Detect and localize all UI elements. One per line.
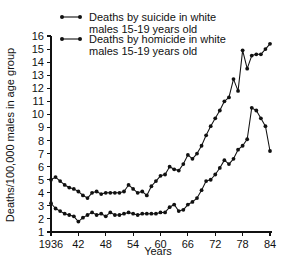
series-data-point	[163, 211, 167, 215]
series-data-point	[254, 109, 258, 113]
series-data-point	[218, 109, 222, 113]
series-data-point	[81, 194, 85, 198]
series-data-point	[254, 52, 258, 56]
series-data-point	[58, 179, 62, 183]
series-data-point	[245, 67, 249, 71]
chart-figure: Deaths/100,000 males in age group 123456…	[0, 0, 288, 260]
series-data-point	[95, 213, 99, 217]
series-data-point	[200, 144, 204, 148]
series-data-point	[58, 209, 62, 213]
series-data-point	[118, 191, 122, 195]
y-tick-label: 13	[32, 69, 44, 81]
x-tick-label: 1936	[39, 238, 63, 250]
series-data-point	[191, 157, 195, 161]
series-data-point	[195, 196, 199, 200]
series-data-point	[49, 201, 53, 205]
series-data-point	[172, 167, 176, 171]
series-data-point	[54, 207, 58, 211]
series-data-point	[250, 106, 254, 110]
series-data-point	[227, 162, 231, 166]
y-axis-title-label: Deaths/100,000 males in age group	[4, 48, 16, 222]
series-data-point	[177, 169, 181, 173]
series-data-point	[104, 214, 108, 218]
y-axis-title: Deaths/100,000 males in age group	[4, 48, 16, 222]
series-data-point	[241, 48, 245, 52]
series-data-point	[86, 196, 90, 200]
series-data-point	[163, 173, 167, 177]
series-data-point	[168, 205, 172, 209]
legend-marker-dot	[78, 15, 82, 19]
x-tick-label: 48	[100, 238, 112, 250]
series-data-point	[159, 174, 163, 178]
series-data-point	[113, 213, 117, 217]
series-data-point	[268, 149, 272, 153]
series-data-point	[268, 42, 272, 46]
series-data-point	[227, 96, 231, 100]
series-data-point	[63, 183, 67, 187]
series-data-point	[136, 191, 140, 195]
series-data-point	[140, 190, 144, 194]
series-data-point	[195, 152, 199, 156]
legend-marker-dot	[60, 37, 64, 41]
x-tick-label: 72	[209, 238, 221, 250]
series-data-point	[72, 187, 76, 191]
suicide-homicide-line-chart: Deaths/100,000 males in age group 123456…	[0, 0, 288, 260]
series-data-point	[118, 213, 122, 217]
series-data-point	[250, 54, 254, 58]
y-tick-label: 8	[38, 135, 44, 147]
series-data-point	[113, 191, 117, 195]
series-data-point	[186, 203, 190, 207]
y-tick-label: 7	[38, 148, 44, 160]
series-data-point	[232, 77, 236, 81]
y-tick-label: 14	[32, 56, 44, 68]
series-data-point	[236, 89, 240, 93]
series-data-point	[191, 200, 195, 204]
x-tick-label: 54	[127, 238, 139, 250]
series-data-point	[154, 179, 158, 183]
series-data-point	[99, 212, 103, 216]
y-tick-label: 3	[38, 200, 44, 212]
series-data-point	[108, 211, 112, 215]
series-data-point	[264, 124, 268, 128]
series-data-point	[67, 213, 71, 217]
y-tick-label: 12	[32, 82, 44, 94]
series-data-point	[222, 99, 226, 103]
series-data-point	[122, 212, 126, 216]
series-data-point	[122, 190, 126, 194]
series-data-point	[81, 216, 85, 220]
series-data-point	[95, 190, 99, 194]
y-tick-label: 16	[32, 30, 44, 42]
series-data-point	[76, 220, 80, 224]
x-axis-title: Years	[144, 245, 172, 257]
legend-label-line1: Deaths by suicide in white	[89, 11, 216, 23]
series-data-point	[236, 148, 240, 152]
x-tick-label: 66	[182, 238, 194, 250]
series-data-point	[213, 173, 217, 177]
series-data-point	[72, 214, 76, 218]
series-data-point	[241, 144, 245, 148]
y-tick-label: 9	[38, 121, 44, 133]
series-data-point	[232, 157, 236, 161]
series-data-point	[99, 192, 103, 196]
legend-label-line1: Deaths by homicide in white	[89, 33, 226, 45]
series-data-point	[172, 203, 176, 207]
y-tick-label: 5	[38, 174, 44, 186]
series-data-point	[149, 212, 153, 216]
y-tick-label: 6	[38, 161, 44, 173]
y-tick-label: 15	[32, 43, 44, 55]
series-data-point	[86, 213, 90, 217]
series-data-point	[90, 191, 94, 195]
series-data-point	[127, 211, 131, 215]
series-data-point	[67, 186, 71, 190]
series-data-point	[209, 124, 213, 128]
series-data-point	[108, 191, 112, 195]
series-data-point	[177, 209, 181, 213]
series-data-point	[54, 175, 58, 179]
legend-marker-dot	[78, 37, 82, 41]
series-data-point	[159, 211, 163, 215]
x-axis-title-label: Years	[144, 245, 172, 257]
series-data-point	[131, 187, 135, 191]
series-data-point	[218, 166, 222, 170]
series-data-point	[145, 194, 149, 198]
series-data-point	[209, 178, 213, 182]
